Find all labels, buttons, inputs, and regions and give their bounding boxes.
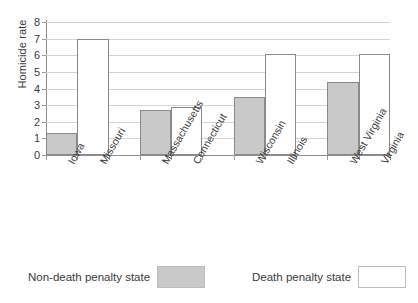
x-tick-mark bbox=[140, 155, 141, 160]
bar-west-virginia bbox=[327, 82, 358, 155]
y-tick-label: 0 bbox=[18, 150, 40, 160]
bar-missouri bbox=[77, 39, 108, 155]
legend-swatch-non-death-penalty bbox=[157, 266, 205, 288]
y-tick-label: 6 bbox=[18, 50, 40, 60]
gridline bbox=[46, 22, 390, 23]
y-tick-mark bbox=[42, 22, 46, 23]
y-tick-mark bbox=[42, 89, 46, 90]
legend-swatch-death-penalty bbox=[358, 266, 406, 288]
y-tick-mark bbox=[42, 122, 46, 123]
y-tick-label: 8 bbox=[18, 17, 40, 27]
chart-legend: Non-death penalty state Death penalty st… bbox=[0, 262, 418, 296]
x-tick-mark bbox=[46, 155, 47, 160]
y-tick-label: 5 bbox=[18, 67, 40, 77]
y-tick-mark bbox=[42, 72, 46, 73]
y-tick-mark bbox=[42, 105, 46, 106]
y-tick-label: 2 bbox=[18, 117, 40, 127]
y-tick-label: 4 bbox=[18, 84, 40, 94]
legend-item-death-penalty: Death penalty state bbox=[252, 266, 406, 288]
x-axis-line bbox=[44, 155, 392, 156]
x-tick-mark bbox=[327, 155, 328, 160]
y-tick-label: 1 bbox=[18, 133, 40, 143]
homicide-rate-bar-chart: Homicide rate 876543210 IowaMissouriMass… bbox=[0, 0, 418, 255]
legend-label-non-death-penalty: Non-death penalty state bbox=[28, 271, 150, 283]
y-tick-mark bbox=[42, 138, 46, 139]
y-tick-label: 3 bbox=[18, 100, 40, 110]
y-tick-label: 7 bbox=[18, 34, 40, 44]
x-tick-mark bbox=[234, 155, 235, 160]
y-tick-mark bbox=[42, 55, 46, 56]
y-tick-mark bbox=[42, 39, 46, 40]
legend-item-non-death-penalty: Non-death penalty state bbox=[28, 266, 205, 288]
legend-label-death-penalty: Death penalty state bbox=[252, 271, 351, 283]
